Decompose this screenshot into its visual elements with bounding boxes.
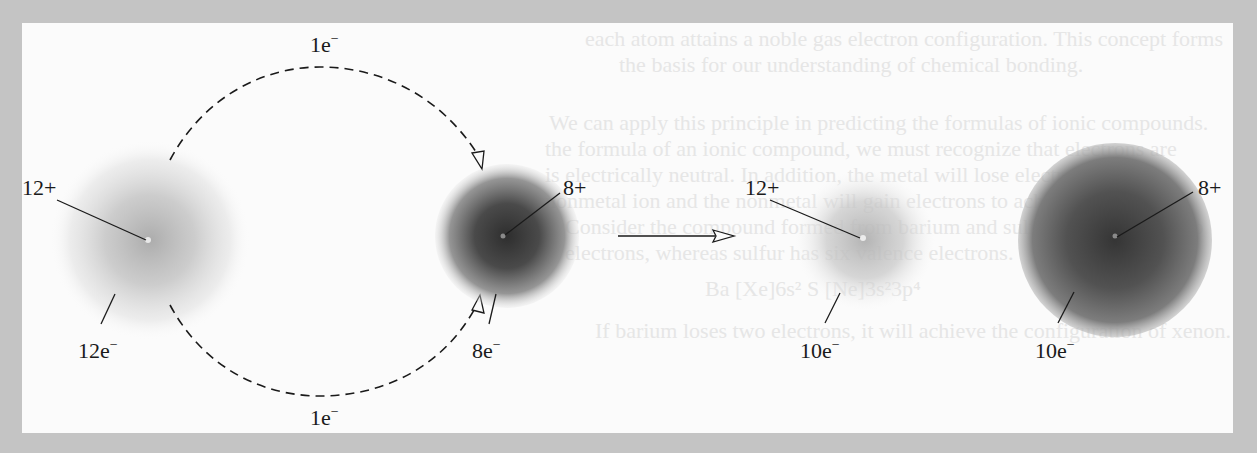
o-ion-nucleus-charge-label: 8+ [1198, 175, 1221, 200]
mg-ion-nucleus [860, 235, 866, 241]
o-atom: 8+ 8e− [435, 164, 586, 363]
reaction-arrow [618, 230, 734, 242]
diagram-panel: each atom attains a noble gas electron c… [22, 23, 1233, 433]
top-arc-arrowhead-icon [472, 151, 484, 169]
mg-electron-count-label: 12e− [78, 337, 118, 363]
mg-ion-electron-count-label: 10e− [800, 337, 840, 363]
o-electron-count-label: 8e− [472, 337, 501, 363]
mg-nucleus-charge-label: 12+ [22, 175, 56, 200]
o-nucleus-charge-label: 8+ [563, 175, 586, 200]
mg-ion-nucleus-charge-label: 12+ [745, 175, 779, 200]
o-ion-nucleus [1113, 234, 1118, 239]
bottom-arc-electron-label: 1e− [310, 404, 339, 430]
top-arc-electron-label: 1e− [310, 31, 339, 57]
o-ion-electron-cloud [1018, 143, 1212, 337]
bottom-transfer-arc [170, 305, 474, 396]
o-ion: 8+ 10e− [1018, 143, 1221, 363]
mg-ion: 12+ 10e− [745, 170, 935, 363]
top-transfer-arc [170, 67, 478, 160]
mg-atom: 12+ 12e− [22, 140, 250, 363]
o-nucleus [501, 234, 506, 239]
o-ion-electron-count-label: 10e− [1035, 337, 1075, 363]
o-electron-cloud [435, 164, 579, 308]
ionic-bond-diagram: 12+ 12e− 1e− 1e− 8+ 8e− [22, 23, 1233, 433]
right-arrow-icon [713, 230, 734, 242]
